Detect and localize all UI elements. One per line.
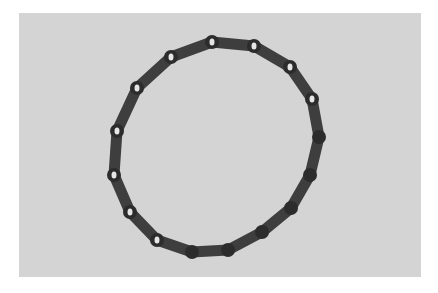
joint-hole xyxy=(115,128,120,135)
joint xyxy=(303,168,317,182)
joint-hole xyxy=(155,237,160,244)
joint xyxy=(284,201,298,215)
joint-hole xyxy=(112,172,117,179)
joint xyxy=(185,245,199,259)
rod-segment xyxy=(117,88,137,131)
joint-hole xyxy=(252,43,257,50)
joint xyxy=(312,130,326,144)
joint-hole xyxy=(310,96,315,103)
chain-ring xyxy=(0,0,438,293)
joint xyxy=(255,225,269,239)
joint-hole xyxy=(135,85,140,92)
joint-hole xyxy=(210,39,215,46)
joint xyxy=(221,243,235,257)
joint-hole xyxy=(288,64,293,71)
joint-hole xyxy=(128,209,133,216)
joint-hole xyxy=(169,54,174,61)
